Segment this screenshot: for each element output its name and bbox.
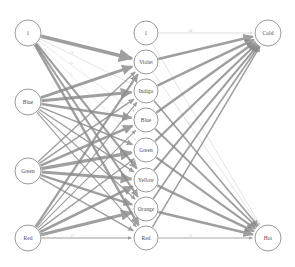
- edge-h-bias-to-out-hot: [152, 44, 260, 225]
- edge-h-yellow-to-out-cold: [154, 45, 258, 170]
- node-in-blue[interactable]: Blue: [15, 89, 41, 115]
- edge-in-green-to-h-yellow: [42, 172, 132, 179]
- node-label-h-violet: Violet: [139, 59, 153, 65]
- edge-weight-label: .11: [189, 234, 193, 238]
- node-in-red[interactable]: Red: [15, 225, 41, 251]
- node-h-green[interactable]: Green: [134, 138, 158, 162]
- edge-h-orange-to-out-cold: [153, 46, 259, 199]
- edge-in-bias-to-h-red: [35, 45, 139, 226]
- edge-weight-label: .17: [70, 234, 74, 238]
- edge-h-green-to-out-cold: [155, 44, 257, 141]
- node-in-green[interactable]: Green: [15, 158, 41, 184]
- edge-h-indigo-to-out-hot: [154, 101, 258, 226]
- edge-h-violet-to-out-hot: [153, 72, 259, 225]
- edge-weight-label: .19: [69, 60, 75, 66]
- node-out-hot[interactable]: Hot: [255, 225, 281, 251]
- node-h-bias[interactable]: 1: [134, 21, 158, 45]
- node-h-violet[interactable]: Violet: [134, 50, 158, 74]
- edge-in-red-to-h-yellow: [40, 186, 133, 232]
- node-out-cold[interactable]: Cold: [255, 20, 281, 46]
- node-label-in-green: Green: [21, 168, 35, 174]
- node-label-h-green: Green: [139, 147, 153, 153]
- node-label-in-blue: Blue: [23, 99, 34, 105]
- node-label-out-cold: Cold: [263, 30, 274, 36]
- node-label-h-orange: Orange: [138, 206, 155, 212]
- nodes-group: 1BlueGreenRed1VioletIndigoBlueGreenYello…: [15, 20, 281, 251]
- edge-h-red-to-out-cold: [152, 46, 260, 227]
- node-h-indigo[interactable]: Indigo: [134, 79, 158, 103]
- edge-weight-label: .02: [189, 29, 193, 33]
- node-label-out-hot: Hot: [264, 235, 273, 241]
- node-h-blue[interactable]: Blue: [134, 108, 158, 132]
- edge-h-blue-to-out-cold: [156, 42, 255, 113]
- node-label-h-blue: Blue: [141, 117, 152, 123]
- neural-network-diagram: .25.19.11.14.17.02.12.17.13.11 1BlueGree…: [0, 0, 295, 267]
- node-h-red[interactable]: Red: [134, 226, 158, 250]
- node-label-h-yellow: Yellow: [138, 177, 154, 183]
- edge-weight-label: .11: [68, 71, 74, 77]
- node-label-in-red: Red: [24, 235, 33, 241]
- node-h-orange[interactable]: Orange: [134, 197, 158, 221]
- node-label-h-bias: 1: [145, 30, 148, 36]
- edge-weight-label: .25: [69, 50, 75, 55]
- network-canvas: .25.19.11.14.17.02.12.17.13.11 1BlueGree…: [0, 0, 295, 267]
- edge-h-blue-to-out-hot: [155, 129, 257, 227]
- node-in-bias[interactable]: 1: [15, 20, 41, 46]
- edge-in-bias-to-h-violet: [41, 36, 132, 58]
- node-label-h-indigo: Indigo: [139, 88, 154, 94]
- node-label-in-bias: 1: [27, 30, 30, 36]
- node-h-yellow[interactable]: Yellow: [134, 168, 158, 192]
- node-label-h-red: Red: [142, 235, 151, 241]
